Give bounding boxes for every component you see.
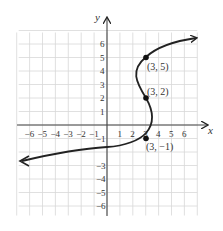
graph: x y −6−5−4−3−2−1123456 654321−1−3−4−5−6 … <box>0 0 223 231</box>
y-axis-label: y <box>94 11 100 23</box>
point-label-3-2: (3, 2) <box>147 86 169 98</box>
y-tick-label: −5 <box>96 188 106 198</box>
x-tick-label: 1 <box>117 129 122 139</box>
x-tick-label: −6 <box>25 129 35 139</box>
x-tick-label: 5 <box>169 129 174 139</box>
x-tick-label: 2 <box>130 129 135 139</box>
y-tick-label: 5 <box>100 53 105 63</box>
axes <box>17 18 207 216</box>
point-label-3-neg1: (3, −1) <box>146 141 173 153</box>
y-tick-label: 1 <box>100 107 105 117</box>
y-tick-label: 3 <box>100 80 105 90</box>
point-3-5 <box>143 55 149 61</box>
x-tick-labels: −6−5−4−3−2−1123456 <box>25 129 187 139</box>
x-tick-label: −3 <box>63 129 73 139</box>
point-label-3-5: (3, 5) <box>147 61 169 73</box>
x-axis-label: x <box>207 124 213 136</box>
y-tick-label: −6 <box>96 201 106 211</box>
y-tick-label: 6 <box>100 39 105 49</box>
y-tick-label: −4 <box>96 174 106 184</box>
x-tick-label: 4 <box>156 129 161 139</box>
y-tick-label: 2 <box>100 93 105 103</box>
y-tick-label: −1 <box>96 134 106 144</box>
x-tick-label: −2 <box>76 129 86 139</box>
y-tick-label: 4 <box>100 66 105 76</box>
x-tick-label: −5 <box>38 129 48 139</box>
y-tick-label: −3 <box>96 161 106 171</box>
x-tick-label: −4 <box>50 129 60 139</box>
x-tick-label: 6 <box>182 129 187 139</box>
